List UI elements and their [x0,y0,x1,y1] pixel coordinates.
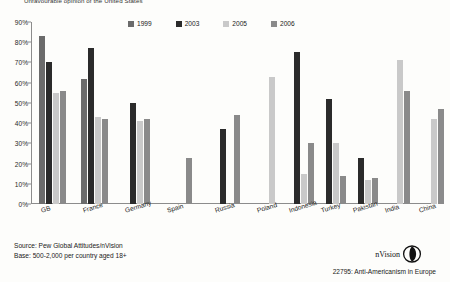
bar-indonesia-2005 [301,174,307,204]
y-axis-line [31,22,32,204]
y-tick-mark [28,82,32,83]
bar-china-2006 [438,109,444,204]
bar-china-2005 [431,119,437,204]
chart-caption: 22795: Anti-Americanism in Europe [333,268,436,275]
y-tick-mark [28,42,32,43]
y-tick-mark [28,123,32,124]
x-label-gb: GB [40,204,51,213]
bar-india-2005 [397,60,403,204]
bar-gb-2005 [53,93,59,204]
bar-poland-2005 [269,77,275,204]
bar-france-1999 [81,79,87,204]
y-tick-label: 70% [15,59,28,66]
y-tick-label: 90% [15,19,28,26]
bar-gb-2003 [46,62,52,204]
y-tick-label: 50% [15,99,28,106]
y-tick-label: 80% [15,39,28,46]
bar-russia-2006 [234,115,240,204]
brand-logo: nVision [375,245,422,263]
y-tick-mark [28,204,32,205]
bar-gb-2006 [60,91,66,204]
y-tick-label: 20% [15,160,28,167]
plot-area: 0%10%20%30%40%50%60%70%80%90% [31,22,435,204]
bar-turkey-2003 [326,99,332,204]
bar-india-2006 [404,91,410,204]
bar-pakistan-2003 [358,158,364,205]
bar-france-2005 [95,117,101,204]
bar-russia-2003 [220,129,226,204]
bar-turkey-2005 [333,143,339,204]
x-label-india: India [384,203,400,214]
bar-indonesia-2006 [308,143,314,204]
chart-page: Unfavourable opinion of the United State… [0,0,450,282]
footer-base: Base: 500-2,000 per country aged 18+ [14,251,127,261]
chart-title: Unfavourable opinion of the United State… [24,0,143,4]
y-tick-mark [28,183,32,184]
y-tick-mark [28,163,32,164]
bar-germany-2003 [130,103,136,204]
y-tick-label: 30% [15,140,28,147]
bar-germany-2005 [137,121,143,204]
bar-gb-1999 [39,36,45,204]
brand-name: nVision [375,250,400,259]
bar-france-2006 [102,119,108,204]
nvision-mark-icon [402,245,422,263]
y-tick-mark [28,22,32,23]
y-tick-label: 10% [15,180,28,187]
bar-indonesia-2003 [294,52,300,204]
y-tick-label: 60% [15,79,28,86]
footer-source: Source: Pew Global Attitudes/nVision [14,241,127,251]
y-tick-mark [28,102,32,103]
y-tick-label: 40% [15,120,28,127]
bar-germany-2006 [144,119,150,204]
footer-notes: Source: Pew Global Attitudes/nVision Bas… [14,241,127,260]
y-tick-mark [28,143,32,144]
y-tick-mark [28,62,32,63]
bar-spain-2006 [186,158,192,205]
bar-turkey-2006 [340,176,346,204]
bar-france-2003 [88,48,94,204]
